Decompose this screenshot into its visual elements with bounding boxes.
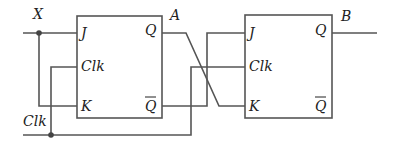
a-label: A <box>168 7 180 23</box>
ff1-k-label: K <box>80 98 93 114</box>
b-label: B <box>340 8 351 24</box>
a-to-k2-wire <box>162 33 245 106</box>
ff2-qbar-label: Q <box>315 98 327 114</box>
ff2-clk-label: Clk <box>249 58 273 74</box>
ff1-qbar-label: Q <box>145 98 157 114</box>
circuit-diagram: X Clk A B J Clk K Q Q J Clk K Q Q <box>0 0 397 146</box>
clk-junction-dot <box>48 132 54 138</box>
ff2-k-label: K <box>248 98 261 114</box>
ff1-clk-label: Clk <box>81 58 105 74</box>
clk-input-label: Clk <box>23 113 47 129</box>
x-junction-dot <box>36 30 42 36</box>
x-label: X <box>32 6 44 22</box>
qbar1-to-j2-wire <box>162 33 245 106</box>
x-to-k1-wire <box>39 33 77 106</box>
ff1-q-label: Q <box>145 22 157 38</box>
ff2-q-label: Q <box>315 22 327 38</box>
clk-wire-to-ff1 <box>51 67 77 135</box>
